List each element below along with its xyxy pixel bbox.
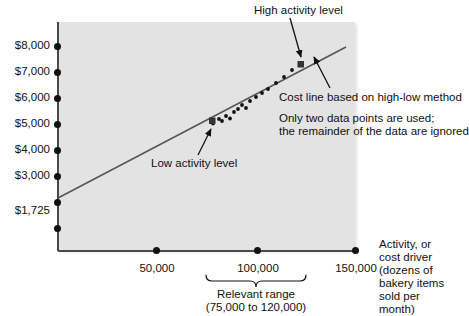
relevant-range-bracket	[206, 275, 306, 287]
data-point	[282, 75, 286, 79]
method-note-line-2: the remainder of the data are ignored	[279, 125, 469, 139]
cost-line-arrow	[314, 57, 330, 88]
data-point	[220, 119, 224, 123]
x-axis-title-line-1: Activity, or	[379, 238, 463, 251]
low-activity-label: Low activity level	[151, 157, 237, 171]
data-point	[248, 99, 252, 103]
low-activity-point	[209, 118, 216, 125]
x-axis-title-line-2: cost driver	[379, 251, 463, 264]
high-activity-arrow	[290, 18, 301, 57]
high-activity-label: High activity level	[254, 4, 343, 18]
data-point	[228, 117, 232, 121]
data-point	[224, 114, 228, 118]
x-axis-title-line-4: bakery items	[379, 277, 463, 290]
relevant-range-values: (75,000 to 120,000)	[156, 301, 356, 315]
x-axis-title-line-5: sold per	[379, 290, 463, 303]
data-point	[274, 81, 278, 85]
data-point	[290, 68, 294, 72]
method-note-line-1: Only two data points are used;	[279, 112, 434, 126]
data-point	[260, 91, 264, 95]
data-point	[236, 107, 240, 111]
data-point	[266, 87, 270, 91]
high-activity-point	[298, 61, 305, 68]
relevant-range-label: Relevant range	[156, 288, 356, 302]
data-point	[244, 106, 248, 110]
data-point	[232, 110, 236, 114]
x-axis-title-line-6: month)	[379, 303, 463, 316]
x-axis-title-line-3: (dozens of	[379, 264, 463, 277]
data-point	[240, 103, 244, 107]
low-activity-arrow	[198, 129, 211, 155]
x-axis-title: Activity, or cost driver (dozens of bake…	[379, 238, 463, 316]
cost-line-label: Cost line based on high-low method	[279, 91, 462, 105]
data-point	[254, 95, 258, 99]
